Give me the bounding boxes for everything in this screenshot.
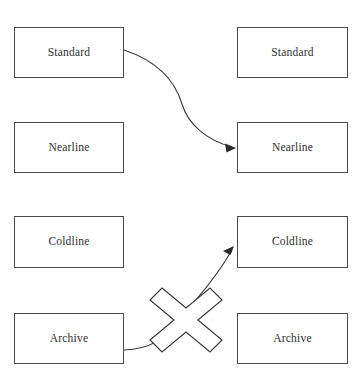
destination-node-archive[interactable]: Archive	[237, 313, 348, 364]
connector-archive-to-coldline-path	[124, 250, 232, 350]
destination-node-standard[interactable]: Standard	[237, 27, 348, 78]
source-node-archive[interactable]: Archive	[14, 313, 124, 364]
source-node-nearline[interactable]: Nearline	[14, 122, 124, 173]
destination-node-nearline[interactable]: Nearline	[237, 122, 348, 173]
destination-node-coldline[interactable]: Coldline	[237, 216, 348, 268]
source-node-nearline-label: Nearline	[48, 142, 89, 154]
source-node-coldline-label: Coldline	[48, 236, 89, 248]
destination-node-standard-label: Standard	[271, 47, 313, 59]
storage-class-transition-diagram: Standard Nearline Coldline Archive Stand…	[0, 0, 361, 382]
destination-node-nearline-label: Nearline	[272, 142, 313, 154]
connector-standard-to-nearline	[124, 50, 236, 153]
blocked-transition-x-icon	[150, 288, 222, 352]
source-node-standard[interactable]: Standard	[14, 27, 124, 78]
destination-node-archive-label: Archive	[273, 333, 311, 345]
connector-archive-to-coldline	[124, 246, 234, 350]
destination-node-coldline-label: Coldline	[272, 236, 313, 248]
source-node-archive-label: Archive	[50, 333, 88, 345]
source-node-coldline[interactable]: Coldline	[14, 216, 124, 268]
connector-standard-to-nearline-path	[124, 50, 232, 147]
source-node-standard-label: Standard	[48, 47, 90, 59]
connector-archive-to-coldline-arrowhead	[223, 246, 234, 255]
header-strip	[0, 0, 361, 10]
connector-standard-to-nearline-arrowhead	[225, 144, 236, 153]
